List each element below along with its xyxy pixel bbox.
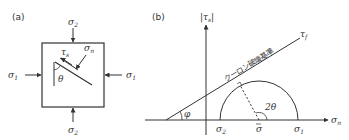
sigma1-left-label: σ1	[8, 70, 18, 81]
sigma-mean-label: σ	[256, 124, 263, 134]
stress-element-square	[42, 43, 104, 107]
fault-plane-upper-line	[60, 58, 78, 70]
sigma1-right-label: σ1	[126, 70, 136, 81]
radius-dashed-line	[240, 85, 259, 120]
sigma-n-axis-label: σn	[331, 115, 341, 126]
mohr-coulomb-diagram: (a) σ2 σ2 σ1 σ1 θ τs σn (b) |τ	[0, 0, 349, 140]
tau-f-label: τf	[300, 29, 309, 41]
panel-b-label: (b)	[152, 12, 165, 22]
sigma-n-label: σn	[84, 43, 94, 54]
sigma2-top-label: σ2	[68, 17, 78, 28]
sigma1-tick-label: σ1	[294, 124, 304, 135]
mohr-circle	[220, 81, 298, 120]
theta-label: θ	[58, 74, 64, 84]
tau-s-label: τs	[61, 47, 69, 58]
sigma2-bottom-label: σ2	[68, 125, 78, 136]
two-theta-arc	[256, 112, 267, 120]
tau-axis-label: |τs|	[200, 12, 214, 23]
panel-b: (b) |τs| σn τf クーロン破壊基準 φ 2θ σ2 σ σ1	[145, 12, 341, 135]
sigma-n-arrow	[76, 55, 86, 69]
two-theta-label: 2θ	[264, 102, 277, 112]
tau-s-arrow	[61, 58, 72, 65]
phi-arc	[180, 111, 182, 120]
sigma2-tick-label: σ2	[216, 124, 226, 135]
panel-a: (a) σ2 σ2 σ1 σ1 θ τs σn	[8, 12, 136, 136]
coulomb-criterion-label: クーロン破壊基準	[222, 45, 276, 83]
phi-label: φ	[184, 109, 191, 119]
theta-arc	[54, 66, 60, 70]
panel-a-label: (a)	[12, 12, 25, 22]
